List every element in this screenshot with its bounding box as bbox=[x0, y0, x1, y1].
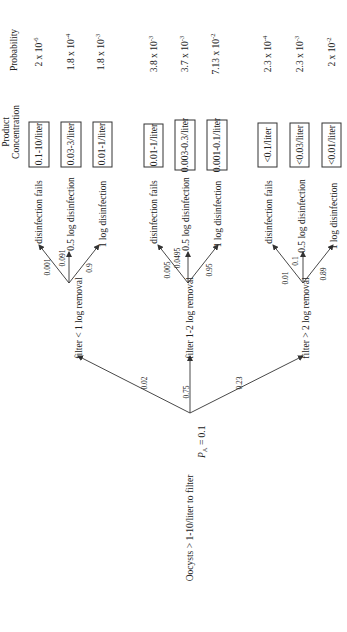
probability-header: Probability bbox=[9, 29, 19, 71]
probability-tree-diagram: Probability Product Concentration Oocyst… bbox=[0, 0, 347, 632]
branch-prob: 0.091 bbox=[58, 249, 67, 266]
concentration-value: 0.01-1/liter bbox=[149, 123, 159, 166]
filter-group-1: filter < 1 log removal 0.001 0.091 0.9 d… bbox=[29, 33, 112, 359]
probability-value: 2 x 10-6 bbox=[32, 37, 44, 67]
root-edge-prob-3: 0.23 bbox=[235, 376, 244, 389]
disinfection-label: 0.5 log disinfection bbox=[297, 179, 307, 253]
probability-value: 3.7 x 10-3 bbox=[178, 36, 190, 72]
branch-prob: 0.95 bbox=[205, 263, 214, 276]
probability-value: 7.13 x 10-2 bbox=[209, 33, 221, 74]
filter-group-3: filter > 2 log removal 0.01 0.1 0.89 dis… bbox=[258, 35, 341, 359]
branch-prob: 0.01 bbox=[281, 271, 290, 284]
branch-prob: 0.89 bbox=[319, 267, 328, 280]
branch-prob: 0.1 bbox=[291, 256, 300, 266]
concentration-value: <0.01/liter bbox=[327, 124, 337, 165]
filter-label: filter < 1 log removal bbox=[74, 277, 84, 359]
product-header-line1: Product bbox=[1, 117, 11, 147]
root-label: Oocysts > 1-10/liter to filter bbox=[185, 474, 195, 582]
probability-value: 2.3 x 10-4 bbox=[261, 35, 273, 72]
branch-prob: 0.001 bbox=[43, 258, 52, 275]
branch-prob: 0.9 bbox=[85, 263, 94, 273]
disinfection-label: 1 log disinfection bbox=[329, 183, 339, 250]
concentration-value: 0.03-3/liter bbox=[66, 122, 76, 165]
edge-root-filter-1 bbox=[78, 356, 190, 413]
disinfection-label: disinfection fails bbox=[264, 180, 274, 244]
root-probability: PA = 0.1 bbox=[197, 425, 208, 459]
filter-label: filter 1-2 log removal bbox=[185, 277, 195, 359]
concentration-value: <0.03/liter bbox=[295, 124, 305, 165]
product-header-line2: Concentration bbox=[11, 105, 21, 159]
concentration-value: 0.1-10/liter bbox=[34, 122, 44, 165]
root-edge-prob-2: 0.75 bbox=[182, 385, 191, 398]
root-edge-prob-1: 0.02 bbox=[140, 376, 149, 389]
disinfection-label: 0.5 log disinfection bbox=[66, 177, 76, 251]
filter-label: filter > 2 log removal bbox=[301, 277, 311, 359]
root-node: Oocysts > 1-10/liter to filter PA = 0.1 bbox=[185, 425, 208, 581]
concentration-value: 0.003-0.3/liter bbox=[180, 117, 190, 172]
concentration-value: <0.1/liter bbox=[263, 127, 273, 163]
concentration-value: 0.001-0.1/liter bbox=[212, 117, 222, 172]
concentration-value: 0.01-1/liter bbox=[97, 122, 107, 165]
probability-value: 2.3 x 10-3 bbox=[293, 36, 305, 72]
disinfection-label: 1 log disinfection bbox=[213, 181, 223, 248]
probability-value: 2 x 10-2 bbox=[325, 37, 337, 66]
probability-value: 3.8 x 10-3 bbox=[147, 36, 159, 72]
edge-root-filter-3 bbox=[190, 356, 303, 413]
disinfection-label: disinfection fails bbox=[149, 180, 159, 244]
disinfection-label: disinfection fails bbox=[34, 180, 44, 244]
filter-group-2: filter 1-2 log removal 0.005 0.0495 0.95… bbox=[144, 33, 227, 358]
branch-edge bbox=[303, 245, 333, 283]
probability-value: 1.8 x 10-4 bbox=[64, 33, 76, 70]
probability-value: 1.8 x 10-3 bbox=[94, 34, 106, 70]
disinfection-label: 1 log disinfection bbox=[98, 181, 108, 248]
disinfection-label: 0.5 log disinfection bbox=[181, 177, 191, 251]
branch-prob: 0.005 bbox=[163, 261, 172, 278]
